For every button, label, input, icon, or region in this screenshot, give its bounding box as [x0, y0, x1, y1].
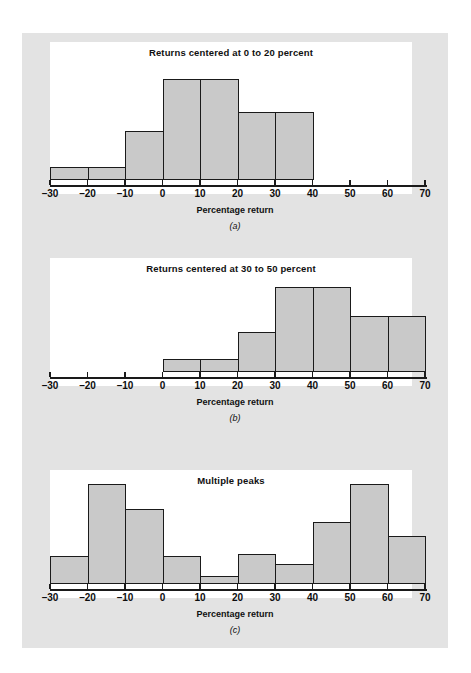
- x-axis-tick-label: –30: [42, 592, 59, 603]
- x-axis-tick-label: 10: [194, 188, 205, 199]
- x-axis-tick: [124, 180, 126, 185]
- x-axis-tick: [312, 180, 314, 185]
- histogram-bar: [50, 167, 89, 180]
- histogram-bar: [275, 564, 314, 584]
- x-axis-tick-label: –20: [79, 592, 96, 603]
- histogram-bar: [238, 112, 277, 180]
- x-axis-tick-label: –30: [42, 188, 59, 199]
- x-axis-tick: [199, 180, 201, 185]
- figure-panel-a: Returns centered at 0 to 20 percent –30–…: [22, 33, 448, 249]
- x-axis-tick-label: –10: [117, 592, 134, 603]
- plot-panel-c: Multiple peaks: [50, 470, 412, 598]
- plot-area-c: [50, 484, 425, 584]
- histogram-bar: [275, 287, 314, 372]
- x-axis-tick: [349, 584, 351, 589]
- x-axis-tick-label: 20: [232, 188, 243, 199]
- x-axis-tick: [387, 372, 389, 377]
- histogram-bar: [88, 167, 127, 180]
- x-axis-tick: [312, 372, 314, 377]
- x-axis-c: [50, 589, 427, 591]
- x-axis-tick-label: 10: [194, 380, 205, 391]
- histogram-bar: [388, 316, 427, 372]
- histogram-bar: [238, 332, 277, 372]
- x-axis-tick-label: –20: [79, 188, 96, 199]
- x-axis-tick: [49, 584, 51, 589]
- x-axis-tick-label: –10: [117, 380, 134, 391]
- x-axis-tick: [424, 180, 426, 185]
- x-axis-tick: [274, 372, 276, 377]
- x-axis-tick: [387, 584, 389, 589]
- histogram-bar: [125, 131, 164, 180]
- x-axis-tick-label: 60: [382, 380, 393, 391]
- x-axis-tick-label: 0: [160, 592, 166, 603]
- x-axis-tick: [274, 180, 276, 185]
- plot-area-a: [50, 62, 425, 180]
- plot-panel-b: Returns centered at 30 to 50 percent: [50, 258, 412, 386]
- figure-panel-b: Returns centered at 30 to 50 percent –30…: [22, 249, 448, 461]
- x-axis-tick: [199, 372, 201, 377]
- x-axis-tick: [237, 372, 239, 377]
- histogram-bar: [200, 79, 239, 180]
- x-axis-b: [50, 377, 427, 379]
- x-axis-tick: [87, 372, 89, 377]
- x-axis-tick-label: 70: [419, 380, 430, 391]
- x-axis-tick: [312, 584, 314, 589]
- x-axis-tick-label: 30: [269, 592, 280, 603]
- x-axis-tick: [274, 584, 276, 589]
- histogram-bar: [313, 522, 352, 584]
- x-axis-tick-label: 0: [160, 188, 166, 199]
- x-axis-tick-label: 40: [307, 380, 318, 391]
- panel-letter-a: (a): [22, 221, 448, 231]
- histogram-bar: [163, 556, 202, 584]
- x-axis-tick: [162, 584, 164, 589]
- x-axis-tick: [49, 372, 51, 377]
- histogram-bar: [388, 536, 427, 584]
- x-axis-tick: [424, 372, 426, 377]
- x-axis-tick-label: 20: [232, 380, 243, 391]
- x-axis-tick-label: –30: [42, 380, 59, 391]
- x-axis-tick: [49, 180, 51, 185]
- x-axis-tick-label: 0: [160, 380, 166, 391]
- figure-panel-c: Multiple peaks –30–20–10010203040506070 …: [22, 461, 448, 648]
- histogram-bar: [200, 576, 239, 584]
- x-axis-tick-label: –20: [79, 380, 96, 391]
- x-axis-tick-label: –10: [117, 188, 134, 199]
- x-axis-title-b: Percentage return: [22, 397, 448, 407]
- histogram-bar: [238, 554, 277, 584]
- x-axis-tick-label: 50: [344, 592, 355, 603]
- histogram-bar: [200, 359, 239, 372]
- histogram-bar: [275, 112, 314, 180]
- x-axis-tick-label: 50: [344, 380, 355, 391]
- x-axis-tick: [199, 584, 201, 589]
- histogram-bar: [125, 509, 164, 584]
- x-axis-tick-label: 30: [269, 380, 280, 391]
- panel-letter-c: (c): [22, 625, 448, 635]
- x-axis-tick-label: 60: [382, 592, 393, 603]
- x-axis-tick-label: 30: [269, 188, 280, 199]
- x-axis-tick: [87, 180, 89, 185]
- histogram-bar: [350, 316, 389, 372]
- bars-b: [50, 272, 425, 372]
- x-axis-tick-label: 40: [307, 592, 318, 603]
- panel-letter-b: (b): [22, 413, 448, 423]
- x-axis-a: [50, 185, 427, 187]
- x-axis-tick-label: 70: [419, 592, 430, 603]
- figure-page: Returns centered at 0 to 20 percent –30–…: [0, 0, 471, 673]
- x-axis-tick: [424, 584, 426, 589]
- x-axis-tick-label: 10: [194, 592, 205, 603]
- x-axis-title-c: Percentage return: [22, 609, 448, 619]
- plot-area-b: [50, 272, 425, 372]
- x-axis-tick-label: 20: [232, 592, 243, 603]
- x-axis-tick: [237, 584, 239, 589]
- histogram-bar: [50, 556, 89, 584]
- x-axis-tick: [387, 180, 389, 185]
- x-axis-tick: [162, 372, 164, 377]
- bars-c: [50, 484, 425, 584]
- bars-a: [50, 62, 425, 180]
- chart-title-a: Returns centered at 0 to 20 percent: [50, 47, 412, 58]
- histogram-bar: [350, 484, 389, 584]
- histogram-bar: [163, 79, 202, 180]
- x-axis-tick-label: 40: [307, 188, 318, 199]
- x-axis-tick-label: 70: [419, 188, 430, 199]
- x-axis-tick: [124, 372, 126, 377]
